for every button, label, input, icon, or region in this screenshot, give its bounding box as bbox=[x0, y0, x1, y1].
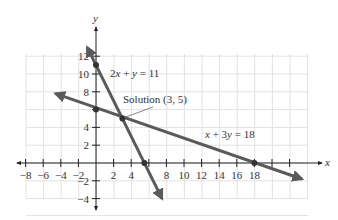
x-tick-label: −6 bbox=[37, 169, 49, 181]
line-chart: xy−8−6−4−224810121416181210842−2−42x + y… bbox=[0, 0, 338, 220]
x-tick-label: −4 bbox=[55, 169, 67, 181]
y-tick-label: 12 bbox=[78, 50, 89, 62]
y-axis-label: y bbox=[92, 12, 98, 24]
solution-annotation: Solution (3, 5) bbox=[123, 93, 187, 106]
solution-point bbox=[119, 116, 125, 122]
series-line-2 bbox=[56, 94, 302, 179]
y-tick-label: 4 bbox=[84, 121, 90, 133]
y-tick-label: 8 bbox=[84, 86, 90, 98]
intercept-point bbox=[141, 160, 147, 166]
x-tick-label: 10 bbox=[179, 169, 191, 181]
x-axis-label: x bbox=[324, 156, 330, 168]
y-tick-label: 10 bbox=[78, 68, 90, 80]
intercept-point bbox=[93, 107, 99, 113]
intercept-point bbox=[251, 160, 257, 166]
chart-container: xy−8−6−4−224810121416181210842−2−42x + y… bbox=[0, 0, 338, 220]
x-tick-label: 2 bbox=[111, 169, 117, 181]
x-tick-label: 18 bbox=[249, 169, 261, 181]
x-tick-label: 4 bbox=[128, 169, 134, 181]
eq1-annotation: 2x + y = 11 bbox=[110, 67, 159, 79]
eq2-annotation: x + 3y = 18 bbox=[204, 128, 255, 140]
y-tick-label: −4 bbox=[77, 193, 89, 205]
x-tick-label: −8 bbox=[20, 169, 32, 181]
y-tick-label: 2 bbox=[84, 139, 90, 151]
x-tick-label: 16 bbox=[231, 169, 243, 181]
y-tick-label: −2 bbox=[77, 175, 89, 187]
intercept-point bbox=[93, 62, 99, 68]
x-tick-label: 8 bbox=[164, 169, 170, 181]
x-tick-label: 12 bbox=[196, 169, 207, 181]
x-tick-label: 14 bbox=[214, 169, 226, 181]
